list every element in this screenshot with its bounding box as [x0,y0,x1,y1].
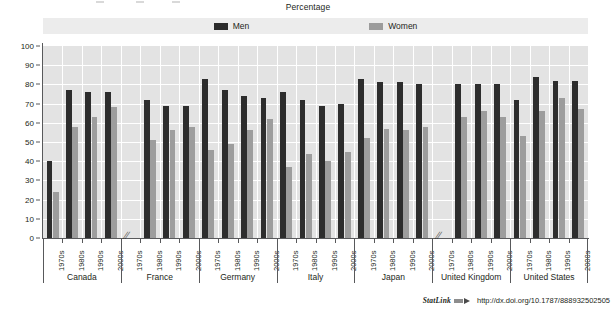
vertical-gridline [101,46,102,238]
y-axis-line [42,43,43,238]
x-axis-decade-label: 1970s [213,251,222,271]
bar-women [578,109,584,238]
y-axis-tick-mark [36,142,40,143]
bar-women [247,130,253,238]
x-axis-tick-mark [62,239,63,243]
x-axis-decade-label: 1970s [369,251,378,271]
x-axis-tick-mark [179,239,180,243]
bar-men [514,100,520,238]
vertical-gridline [530,46,531,238]
x-axis-tick-mark [238,239,239,243]
vertical-gridline [432,46,433,238]
x-axis-tick-mark [471,239,472,243]
y-axis-tick-label: 80 [0,80,34,89]
vertical-gridline [238,46,239,238]
bar-men [280,92,286,238]
x-axis: 1970s1980s1990s2000sCanada1970s//1980s19… [43,239,588,287]
x-axis-tick-mark [335,239,336,243]
vertical-gridline [374,46,375,238]
x-axis-tick-mark [530,239,531,243]
y-axis-tick-mark [36,84,40,85]
group-label: Germany [199,272,277,282]
men-swatch-icon [214,23,228,30]
bar-men [300,100,306,238]
bar-men [533,77,539,238]
bar-women [53,192,59,238]
vertical-gridline [160,46,161,238]
chart-legend: Men Women [43,18,588,34]
bar-men [377,82,383,238]
x-axis-decade-label: 1980s [155,251,164,271]
bar-men [202,79,208,238]
vertical-gridline [199,46,200,238]
y-axis-tick-mark [36,46,40,47]
x-axis-tick-mark [569,239,570,243]
bar-men [572,81,578,238]
bar-women [286,167,292,238]
x-axis-decade-label: 1990s [330,251,339,271]
bar-men [163,106,169,238]
x-axis-decade-label: 1980s [544,251,553,271]
bar-women [364,138,370,238]
x-axis-tick-mark [82,239,83,243]
y-axis-tick-mark [36,238,40,239]
x-axis-decade-label: 1990s [408,251,417,271]
chart-subtitle: Percentage [0,2,616,12]
women-swatch-icon [369,23,383,30]
bar-women [500,117,506,238]
vertical-gridline [121,46,122,238]
x-axis-tick-mark [296,239,297,243]
x-axis-decade-label: 1990s [252,251,261,271]
statlink-footer: StatLink http://dx.doi.org/10.1787/88893… [423,296,610,305]
x-axis-decade-label: 1980s [310,251,319,271]
bar-men [553,81,559,238]
vertical-gridline [257,46,258,238]
bar-men [416,84,422,238]
bar-men [47,161,53,238]
group-label: Italy [277,272,355,282]
vertical-gridline [140,46,141,238]
bar-women [481,111,487,238]
bar-men [455,84,461,238]
bar-women [267,119,273,238]
y-axis-tick-label: 40 [0,157,34,166]
group-label: United States [510,272,588,282]
statlink-label: StatLink [423,296,451,305]
vertical-gridline [569,46,570,238]
vertical-gridline [62,46,63,238]
vertical-gridline [296,46,297,238]
vertical-gridline [179,46,180,238]
plot-area [43,46,588,238]
statlink-url[interactable]: http://dx.doi.org/10.1787/888932502505 [477,296,610,305]
y-axis-tick-mark [36,65,40,66]
x-axis-decade-label: 1990s [486,251,495,271]
bar-men [358,79,364,238]
vertical-gridline [510,46,511,238]
group-label: United Kingdom [432,272,510,282]
bar-men [338,104,344,238]
x-axis-tick-mark [101,239,102,243]
vertical-gridline [335,46,336,238]
x-axis-tick-mark [491,239,492,243]
vertical-gridline [471,46,472,238]
x-axis-tick-mark [160,239,161,243]
y-axis-tick-label: 10 [0,214,34,223]
bar-women [111,107,117,238]
x-axis-tick-mark [452,239,453,243]
x-axis-tick-mark [316,239,317,243]
group-label: France [121,272,199,282]
vertical-gridline [82,46,83,238]
y-axis: 1009080706050403020100 [0,46,41,238]
bar-men [144,100,150,238]
vertical-gridline [354,46,355,238]
x-axis-decade-label: 1990s [563,251,572,271]
y-axis-tick-mark [36,180,40,181]
bar-women [539,111,545,238]
legend-label-women: Women [388,21,417,31]
bar-women [306,154,312,238]
group-label: Canada [43,272,121,282]
bar-women [345,152,351,238]
bar-women [325,161,331,238]
y-axis-tick-mark [36,103,40,104]
x-axis-tick-mark [413,239,414,243]
